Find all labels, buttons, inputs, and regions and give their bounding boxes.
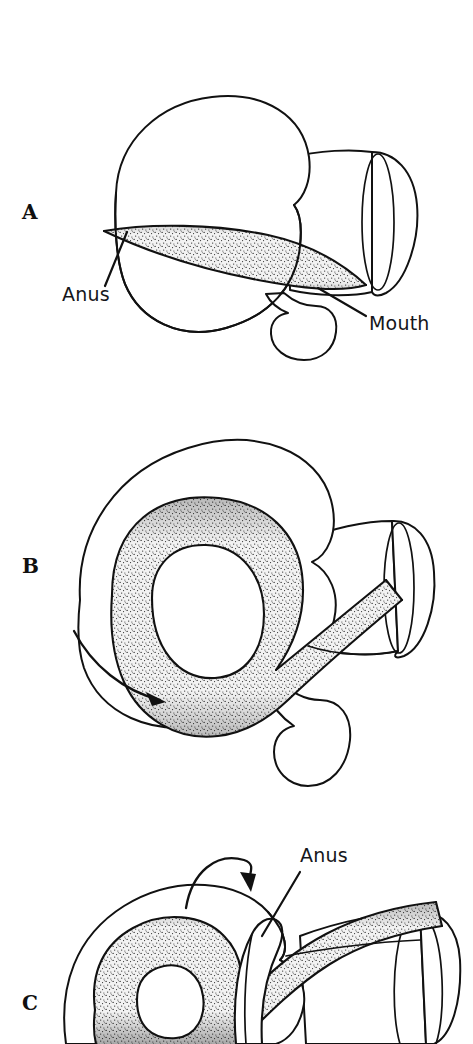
panel-letter-c: C — [22, 991, 38, 1015]
label-anus-c: Anus — [300, 844, 348, 866]
figure-root: A Anus Mouth — [0, 0, 473, 1044]
label-mouth-a: Mouth — [369, 312, 430, 334]
torsion-figure: A Anus Mouth — [0, 0, 473, 1044]
label-anus-a: Anus — [62, 283, 110, 305]
panel-letter-b: B — [22, 554, 39, 578]
panel-letter-a: A — [21, 200, 38, 224]
